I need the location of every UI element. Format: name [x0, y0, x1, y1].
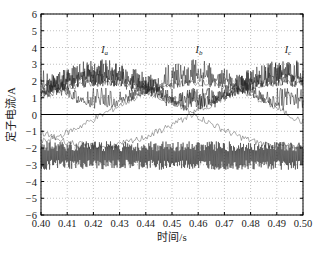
svg-text:−5: −5 [26, 193, 37, 204]
svg-text:Ic: Ic [284, 44, 292, 57]
svg-text:0: 0 [32, 110, 37, 121]
series-annotations: IaIbIc [100, 44, 292, 57]
svg-text:−2: −2 [26, 143, 37, 154]
svg-text:3: 3 [32, 59, 37, 70]
svg-text:0.44: 0.44 [137, 218, 156, 229]
svg-text:0.46: 0.46 [189, 218, 207, 229]
svg-text:−1: −1 [26, 126, 37, 137]
y-axis-label: 定子电流/A [4, 87, 17, 142]
svg-text:−4: −4 [26, 177, 38, 188]
svg-text:2: 2 [32, 76, 37, 87]
x-axis-label: 时间/s [157, 231, 186, 243]
svg-text:0.47: 0.47 [215, 218, 233, 229]
svg-text:5: 5 [32, 26, 37, 37]
svg-text:0.43: 0.43 [110, 218, 128, 229]
svg-text:−6: −6 [26, 210, 37, 221]
svg-text:0.49: 0.49 [268, 218, 286, 229]
svg-text:−3: −3 [26, 160, 37, 171]
svg-text:0.50: 0.50 [294, 218, 312, 229]
svg-text:Ib: Ib [195, 44, 203, 57]
stator-current-chart: 0.400.410.420.430.440.450.460.470.480.49… [0, 0, 319, 254]
svg-text:Ia: Ia [100, 44, 108, 57]
svg-text:0.42: 0.42 [84, 218, 102, 229]
x-axis-ticks: 0.400.410.420.430.440.450.460.470.480.49… [32, 14, 312, 229]
svg-text:0.41: 0.41 [58, 218, 76, 229]
svg-text:0.45: 0.45 [163, 218, 181, 229]
svg-text:1: 1 [32, 93, 37, 104]
svg-text:4: 4 [32, 43, 38, 54]
svg-text:6: 6 [32, 9, 37, 20]
svg-text:0.48: 0.48 [241, 218, 259, 229]
